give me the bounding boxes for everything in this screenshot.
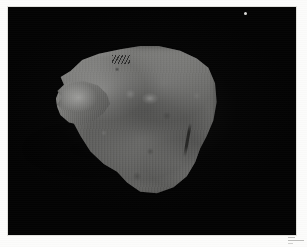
photographic-plate — [8, 7, 296, 235]
caption-mark-line — [288, 243, 293, 244]
caption-mark — [288, 237, 305, 244]
specimen-highlight — [142, 93, 158, 104]
caption-mark-line — [288, 237, 295, 238]
rock-specimen — [54, 43, 220, 198]
scanned-plate-page — [0, 0, 307, 247]
dust-speck-artifact — [244, 12, 247, 15]
caption-mark-line — [288, 240, 304, 241]
specimen-chisel-marks — [112, 55, 130, 64]
